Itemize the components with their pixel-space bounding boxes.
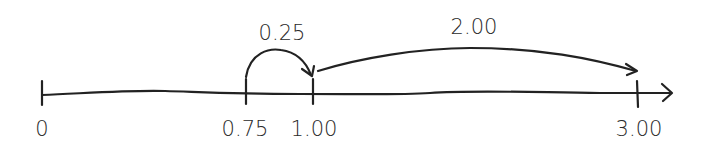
jump-label-0.25: 0.25	[259, 21, 306, 45]
number-line-diagram: 0.25 2.00 0 0.75 1.00 3.00	[0, 0, 706, 156]
number-line-axis	[42, 91, 670, 95]
jump-arc-0.25	[246, 50, 311, 77]
tick-label-0.75: 0.75	[222, 117, 269, 141]
tick-3.00	[637, 81, 638, 107]
jump-label-2.00: 2.00	[451, 15, 498, 39]
tick-label-0: 0	[35, 117, 48, 141]
tick-label-1.00: 1.00	[291, 117, 338, 141]
tick-label-3.00: 3.00	[616, 117, 663, 141]
jump-arc-2.00	[318, 48, 636, 71]
